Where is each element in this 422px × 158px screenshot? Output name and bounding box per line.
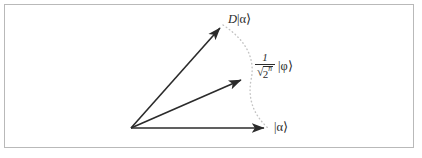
label-alpha-state: |α⟩ <box>274 121 288 134</box>
radicand-exponent: n <box>268 64 272 73</box>
square-root-icon: √ 2n <box>257 66 273 81</box>
fraction-one-over-sqrt-two-n: 1 √ 2n <box>255 52 275 80</box>
label-ket-alpha-lower: |α⟩ <box>274 120 288 134</box>
fraction-numerator: 1 <box>260 52 270 64</box>
label-ket-alpha-upper: |α⟩ <box>237 12 251 26</box>
label-operator-d: D <box>228 12 237 26</box>
displaced-state-vector <box>131 28 220 128</box>
normalized-phi-vector <box>131 80 241 128</box>
label-normalized-phi: 1 √ 2n |φ⟩ <box>255 52 293 80</box>
vector-canvas <box>0 0 422 158</box>
figure-root: D|α⟩ 1 √ 2n |φ⟩ |α⟩ <box>0 0 422 158</box>
fraction-denominator: √ 2n <box>255 65 275 80</box>
radicand-group: 2n <box>263 66 273 81</box>
label-displaced-state: D|α⟩ <box>228 13 251 26</box>
label-ket-phi: |φ⟩ <box>278 60 293 73</box>
